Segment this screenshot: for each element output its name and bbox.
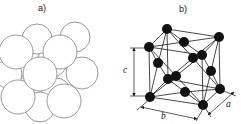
atom-BBR <box>215 84 225 94</box>
atom-CR <box>206 66 216 76</box>
bond-CR-BFR <box>203 71 211 105</box>
atom-CB <box>180 87 190 97</box>
dimension-label-a: a <box>226 99 231 109</box>
dimension-label-c: c <box>123 65 127 75</box>
crystal-structure-figure: a) b) c b a <box>0 0 241 124</box>
panel-a-label: a) <box>38 3 46 13</box>
atom-CF <box>171 71 181 81</box>
sphere-12 <box>47 84 81 118</box>
dimension-label-b: b <box>161 111 166 121</box>
bond-BBR-TBR <box>219 37 220 89</box>
bond-TBR-TBL <box>167 29 219 37</box>
atom-TBR <box>214 32 224 42</box>
atom-TBL <box>162 24 172 34</box>
atom-BFR <box>198 100 208 110</box>
bond-BFR-TFR <box>202 55 203 105</box>
atom-CK <box>188 53 198 63</box>
atom-TFL <box>144 42 154 52</box>
atom-TFR <box>197 50 207 60</box>
bond-BFL-BFR <box>150 97 203 105</box>
atom-CL <box>153 58 163 68</box>
unit-cell <box>130 24 236 121</box>
diagram-svg <box>0 0 241 124</box>
dim-line-b <box>141 107 197 119</box>
sphere-cluster <box>0 22 98 122</box>
atom-CT <box>179 37 189 47</box>
atom-BFL <box>145 92 155 102</box>
panel-b-label: b) <box>179 4 187 14</box>
bond-CL-TBL <box>158 29 167 63</box>
bond-BBL-TBL <box>167 29 168 79</box>
sphere-13 <box>23 57 57 91</box>
bond-BFL-TFL <box>149 47 150 97</box>
bond-CT-TFL <box>149 42 184 47</box>
